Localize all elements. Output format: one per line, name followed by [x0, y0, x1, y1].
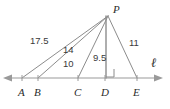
right-angle-marker [106, 69, 114, 77]
length-label-PC: 10 [63, 59, 74, 69]
line-l-arrow-right [154, 75, 163, 82]
line-label-ell: ℓ [151, 56, 156, 69]
diagram-canvas [0, 0, 170, 109]
point-label-B: B [34, 87, 41, 98]
length-label-PB: 14 [63, 45, 74, 55]
vertex-label-P: P [113, 4, 120, 15]
point-label-E: E [133, 87, 140, 98]
point-label-C: C [74, 87, 81, 98]
line-l-arrow-left [3, 75, 12, 82]
segment-PC [78, 16, 108, 78]
point-label-A: A [18, 87, 25, 98]
geometry-figure: P 17.5 14 10 9.5 11 ℓ A B C D E [0, 0, 170, 109]
length-label-PD: 9.5 [93, 53, 106, 63]
point-label-D: D [101, 87, 109, 98]
length-label-PA: 17.5 [30, 36, 49, 46]
segment-group [22, 16, 137, 78]
length-label-PE: 11 [129, 38, 139, 48]
